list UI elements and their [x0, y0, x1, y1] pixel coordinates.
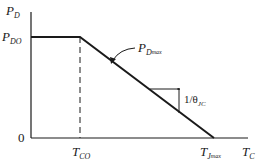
- derating-curve: [31, 37, 214, 138]
- curve-label-subsub: max: [152, 49, 162, 55]
- curve-label-leader: [113, 48, 135, 60]
- tco-sub: CO: [79, 152, 90, 161]
- slope-label: 1/θJC: [184, 94, 206, 105]
- pdo-main: P: [2, 29, 10, 44]
- diagram-graphics: [0, 0, 267, 165]
- x-axis-label: TC: [242, 145, 255, 158]
- slope-label-prefix: 1/θ: [184, 93, 198, 105]
- power-derating-diagram: PD PDO 0 TCO TJmax TC PDmax 1/θJC: [0, 0, 267, 165]
- pdo-sub: DO: [10, 37, 22, 46]
- slope-label-sub: JC: [198, 100, 206, 108]
- tjmax-subsub: max: [211, 153, 221, 159]
- y-axis-label: PD: [6, 4, 20, 17]
- y-axis-label-sub: D: [14, 11, 20, 20]
- curve-label-sub: D: [146, 48, 152, 57]
- tjmax-tick-label: TJmax: [200, 145, 221, 158]
- pdo-tick-label: PDO: [2, 30, 22, 43]
- y-axis-label-main: P: [6, 3, 14, 18]
- curve-label-main: P: [138, 40, 146, 55]
- zero-tick-label: 0: [18, 131, 25, 144]
- x-axis-label-sub: C: [249, 152, 254, 161]
- tco-tick-label: TCO: [72, 145, 90, 158]
- curve-label: PDmax: [138, 41, 162, 54]
